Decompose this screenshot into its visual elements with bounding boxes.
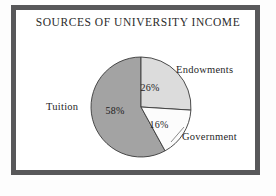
chart-figure: SOURCES OF UNIVERSITY INCOME Endowments … [0, 0, 276, 196]
pie-value-endowments: 26% [141, 82, 160, 93]
pie-label-government: Government [182, 131, 237, 142]
pie-value-government: 16% [150, 119, 169, 130]
pie-svg [0, 0, 276, 196]
pie-label-endowments: Endowments [176, 64, 233, 75]
pie-label-tuition: Tuition [46, 101, 78, 112]
pie-chart: Endowments Tuition Government 26% 58% 16… [0, 0, 276, 196]
pie-value-tuition: 58% [106, 105, 125, 116]
